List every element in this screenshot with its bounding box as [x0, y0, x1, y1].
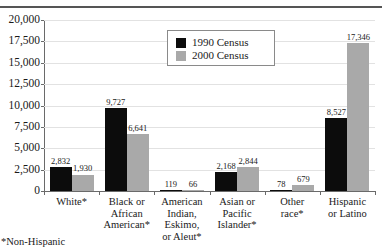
- y-axis-tick-label: 12,500: [0, 78, 40, 89]
- bar-chart: 2,8321,9309,7276,641119662,1682,84478679…: [0, 0, 382, 251]
- x-axis-tick-mark: [265, 191, 266, 195]
- y-axis-tick-label: 10,000: [0, 100, 40, 111]
- y-axis-tick-mark: [41, 63, 44, 64]
- chart-footnote: *Non-Hispanic: [1, 236, 65, 247]
- x-axis-tick-mark: [44, 191, 45, 195]
- legend-item-1990: 1990 Census: [176, 36, 249, 49]
- legend-item-2000: 2000 Census: [176, 49, 249, 62]
- x-axis-category-label: Hispanicor Latino: [314, 196, 381, 219]
- y-axis-tick-label: 2,500: [0, 164, 40, 175]
- y-axis-tick-label: 0: [0, 185, 40, 196]
- y-axis-tick-label: 5,000: [0, 142, 40, 153]
- legend-swatch-2000: [176, 51, 186, 61]
- x-axis-category-line: or Aleut*: [148, 231, 215, 243]
- legend-label-2000: 2000 Census: [192, 50, 249, 61]
- y-axis-tick-mark: [41, 148, 44, 149]
- y-axis-tick-label: 17,500: [0, 35, 40, 46]
- x-axis-tick-mark: [210, 191, 211, 195]
- y-axis-tick-mark: [41, 41, 44, 42]
- y-axis-tick-label: 15,000: [0, 57, 40, 68]
- x-axis-tick-mark: [375, 191, 376, 195]
- y-axis-tick-mark: [41, 84, 44, 85]
- legend-label-1990: 1990 Census: [192, 37, 249, 48]
- y-axis-tick-label: 7,500: [0, 121, 40, 132]
- x-axis-tick-mark: [320, 191, 321, 195]
- y-axis-tick-mark: [41, 20, 44, 21]
- y-axis-tick-mark: [41, 127, 44, 128]
- legend-swatch-1990: [176, 38, 186, 48]
- x-axis-tick-mark: [99, 191, 100, 195]
- x-axis-category-line: Hispanic: [314, 196, 381, 208]
- chart-legend: 1990 Census 2000 Census: [167, 30, 275, 66]
- y-axis-tick-mark: [41, 106, 44, 107]
- y-axis-tick-label: 20,000: [0, 14, 40, 25]
- y-axis-tick-mark: [41, 170, 44, 171]
- x-axis-tick-mark: [154, 191, 155, 195]
- x-axis-category-line: Islander*: [204, 219, 271, 231]
- x-axis-category-line: or Latino: [314, 208, 381, 220]
